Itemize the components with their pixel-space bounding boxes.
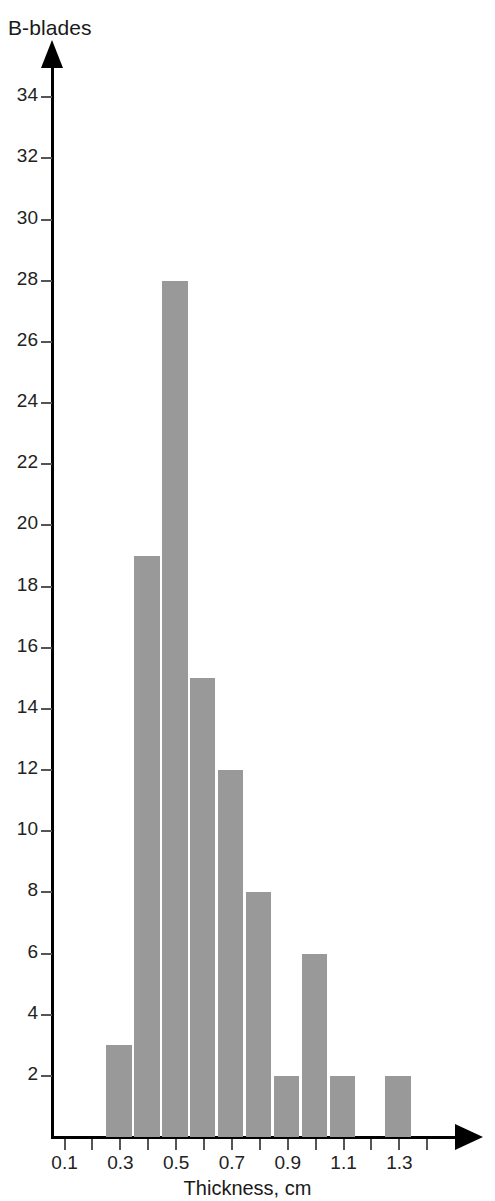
y-axis-tick xyxy=(41,708,52,710)
y-axis-tick xyxy=(41,219,52,221)
y-axis-tick xyxy=(41,402,52,404)
y-axis-tick xyxy=(41,586,52,588)
y-axis-tick xyxy=(41,953,52,955)
y-axis-tick-label: 12 xyxy=(17,757,38,779)
histogram-bar xyxy=(106,1045,131,1137)
histogram-bar xyxy=(190,678,215,1137)
histogram-chart: B-blades 246810121416182022242628303234 … xyxy=(0,0,495,1201)
y-axis-tick xyxy=(41,463,52,465)
x-axis-tick xyxy=(398,1139,400,1150)
x-axis-tick-label: 0.3 xyxy=(93,1152,147,1174)
y-axis-tick xyxy=(41,1014,52,1016)
x-axis-tick-label: 0.1 xyxy=(38,1152,92,1174)
y-axis-tick xyxy=(41,891,52,893)
y-axis-tick xyxy=(41,157,52,159)
y-axis-tick xyxy=(41,1075,52,1077)
y-axis-tick xyxy=(41,280,52,282)
histogram-bar xyxy=(134,556,159,1137)
x-axis-title: Thickness, cm xyxy=(0,1177,495,1200)
x-axis-tick xyxy=(231,1139,233,1150)
y-axis-tick-label: 14 xyxy=(17,696,38,718)
y-axis-tick xyxy=(41,769,52,771)
y-axis-tick xyxy=(41,96,52,98)
histogram-bar xyxy=(385,1076,410,1137)
x-axis-arrow-icon xyxy=(455,1124,483,1150)
histogram-bar xyxy=(162,281,187,1137)
x-axis-tick xyxy=(119,1139,121,1150)
x-axis-tick-label: 0.5 xyxy=(149,1152,203,1174)
y-axis-tick xyxy=(41,830,52,832)
y-axis-tick-label: 4 xyxy=(27,1002,38,1024)
y-axis-tick-label: 22 xyxy=(17,451,38,473)
x-axis-minor-tick xyxy=(203,1139,205,1150)
y-axis-tick-label: 34 xyxy=(17,84,38,106)
y-axis-tick xyxy=(41,524,52,526)
histogram-bar xyxy=(330,1076,355,1137)
y-axis-line xyxy=(51,62,54,1139)
y-axis-tick xyxy=(41,341,52,343)
x-axis-minor-tick xyxy=(147,1139,149,1150)
y-axis-tick-label: 2 xyxy=(27,1063,38,1085)
x-axis-tick-label: 0.7 xyxy=(205,1152,259,1174)
y-axis-arrow-icon xyxy=(41,40,63,68)
histogram-bar xyxy=(274,1076,299,1137)
x-axis-tick-label: 0.9 xyxy=(261,1152,315,1174)
y-axis-tick-label: 8 xyxy=(27,879,38,901)
y-axis-tick-label: 10 xyxy=(17,818,38,840)
x-axis-tick xyxy=(64,1139,66,1150)
x-axis-tick-label: 1.3 xyxy=(372,1152,426,1174)
y-axis-tick xyxy=(41,647,52,649)
plot-area: 246810121416182022242628303234 0.10.30.5… xyxy=(0,0,495,1201)
y-axis-tick-label: 6 xyxy=(27,941,38,963)
x-axis-minor-tick xyxy=(91,1139,93,1150)
y-axis-tick-label: 30 xyxy=(17,207,38,229)
y-axis-tick-label: 16 xyxy=(17,635,38,657)
histogram-bar xyxy=(246,892,271,1137)
x-axis-tick-label: 1.1 xyxy=(317,1152,371,1174)
x-axis-minor-tick xyxy=(426,1139,428,1150)
y-axis-tick-label: 32 xyxy=(17,145,38,167)
y-axis-tick-label: 26 xyxy=(17,329,38,351)
y-axis-tick-label: 20 xyxy=(17,512,38,534)
y-axis-tick-label: 28 xyxy=(17,268,38,290)
x-axis-minor-tick xyxy=(315,1139,317,1150)
histogram-bar xyxy=(302,954,327,1138)
x-axis-tick xyxy=(287,1139,289,1150)
x-axis-minor-tick xyxy=(259,1139,261,1150)
x-axis-tick xyxy=(175,1139,177,1150)
x-axis-minor-tick xyxy=(370,1139,372,1150)
histogram-bar xyxy=(218,770,243,1137)
y-axis-tick-label: 18 xyxy=(17,574,38,596)
x-axis-tick xyxy=(343,1139,345,1150)
y-axis-tick-label: 24 xyxy=(17,390,38,412)
